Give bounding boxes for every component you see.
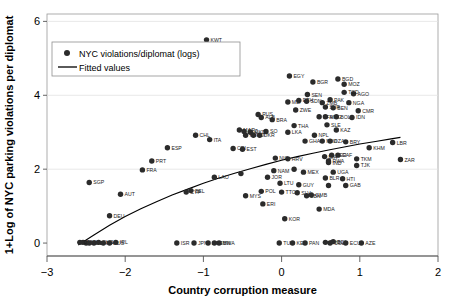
data-point[interactable] [343,183,348,188]
data-point[interactable] [324,122,329,127]
data-point[interactable] [101,240,106,245]
data-point[interactable] [216,240,221,245]
data-point[interactable] [343,240,348,245]
data-point[interactable] [282,216,287,221]
data-point[interactable] [326,183,331,188]
data-point[interactable] [259,115,264,120]
data-point[interactable] [96,240,101,245]
data-point[interactable] [312,132,317,137]
data-point[interactable] [341,81,346,86]
data-point[interactable] [271,168,276,173]
data-point[interactable] [331,239,336,244]
data-point[interactable] [212,240,217,245]
data-point[interactable] [174,240,179,245]
data-point[interactable] [341,90,346,95]
data-point-label: MEX [307,169,319,175]
data-point[interactable] [398,157,403,162]
data-point-label: BEN [337,105,348,111]
data-point[interactable] [207,137,212,142]
data-point[interactable] [354,156,359,161]
data-point[interactable] [277,181,282,186]
data-point[interactable] [260,201,265,206]
data-point[interactable] [305,92,310,97]
data-point[interactable] [285,99,290,104]
data-point[interactable] [91,240,96,245]
data-point[interactable] [279,189,284,194]
data-point[interactable] [322,154,327,159]
data-point[interactable] [230,146,235,151]
data-point[interactable] [77,240,82,245]
data-point[interactable] [290,240,295,245]
data-point[interactable] [291,166,296,171]
data-point[interactable] [356,108,361,113]
data-point[interactable] [291,123,296,128]
data-point[interactable] [212,175,217,180]
data-point[interactable] [270,117,275,122]
data-point-label: LAO [218,174,228,180]
data-point[interactable] [334,127,339,132]
data-point[interactable] [237,127,242,132]
data-point[interactable] [320,138,325,143]
data-point[interactable] [183,189,188,194]
data-point[interactable] [323,114,328,119]
data-point[interactable] [354,163,359,168]
data-point[interactable] [326,160,331,165]
data-point[interactable] [302,138,307,143]
data-point[interactable] [287,73,292,78]
data-point[interactable] [87,180,92,185]
data-point[interactable] [113,240,118,245]
data-point[interactable] [238,171,243,176]
data-point[interactable] [316,114,321,119]
data-point[interactable] [310,79,315,84]
data-point[interactable] [327,138,332,143]
data-point[interactable] [118,192,123,197]
data-point[interactable] [343,139,348,144]
data-point[interactable] [323,175,328,180]
data-point[interactable] [257,132,262,137]
data-point[interactable] [296,182,301,187]
data-point[interactable] [107,213,112,218]
data-point[interactable] [251,132,256,137]
data-point-label: TTO [286,189,296,195]
data-point[interactable] [240,147,245,152]
data-point[interactable] [349,115,354,120]
data-point[interactable] [309,192,314,197]
data-point[interactable] [285,130,290,135]
data-point[interactable] [329,152,334,157]
data-point[interactable] [265,175,270,180]
data-point[interactable] [335,152,340,157]
data-point[interactable] [335,76,340,81]
data-point[interactable] [188,188,193,193]
data-point[interactable] [243,132,248,137]
data-point[interactable] [323,104,328,109]
data-point[interactable] [107,240,112,245]
data-point[interactable] [359,240,364,245]
data-point[interactable] [205,240,210,245]
data-point[interactable] [295,190,300,195]
data-point-label: ERI [267,201,276,207]
data-point[interactable] [191,240,196,245]
data-point[interactable] [293,107,298,112]
data-point[interactable] [273,155,278,160]
data-point[interactable] [277,240,282,245]
data-point[interactable] [165,145,170,150]
data-point[interactable] [331,105,336,110]
data-point[interactable] [304,98,309,103]
data-point[interactable] [366,145,371,150]
data-point[interactable] [193,132,198,137]
data-point[interactable] [316,206,321,211]
data-point[interactable] [87,240,92,245]
data-point[interactable] [149,158,154,163]
data-point[interactable] [302,240,307,245]
data-point[interactable] [323,240,328,245]
data-point[interactable] [334,114,339,119]
data-point[interactable] [243,193,248,198]
data-point[interactable] [390,140,395,145]
data-point-label: PRT [156,158,167,164]
data-point[interactable] [301,169,306,174]
data-point[interactable] [340,176,345,181]
data-point[interactable] [331,169,336,174]
data-point[interactable] [320,100,325,105]
data-point[interactable] [140,167,145,172]
data-point[interactable] [304,193,309,198]
